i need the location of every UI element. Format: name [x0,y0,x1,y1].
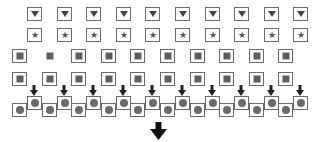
square-row-2-cell [190,72,205,86]
triangle-row-cell [116,7,131,21]
circle-icon [120,99,128,107]
square-row-1-cell [278,49,293,63]
square-row-2-cell [130,72,145,86]
chain-upper-cell [145,96,160,110]
square-icon [46,76,53,83]
chain-upper-cell [57,96,72,110]
chain-upper-cell [175,96,190,110]
square-row-2-cell [71,72,86,86]
star-row-cell: ★ [27,28,42,42]
chain-upper-cell [205,96,220,110]
star-icon: ★ [31,31,39,40]
chain-upper-cell [86,96,101,110]
triangle-row-cell [27,7,42,21]
triangle-down-icon [90,11,98,17]
chain-lower-cell [278,103,293,117]
circle-icon [209,99,217,107]
chain-lower-cell [42,103,57,117]
square-row-1-cell [249,49,264,63]
square-row-2-cell [249,72,264,86]
star-icon: ★ [179,31,187,40]
triangle-down-icon [61,11,69,17]
star-row-cell: ★ [145,28,160,42]
star-icon: ★ [90,31,98,40]
square-row-2-cell [219,72,234,86]
circle-icon [105,106,113,114]
triangle-row-cell [264,7,279,21]
square-row-1-cell [130,49,145,63]
square-icon [134,76,141,83]
shape-diagram: ★★★★★★★★★★ [0,0,317,142]
star-icon: ★ [149,31,157,40]
square-icon [75,76,82,83]
square-icon [16,53,23,60]
circle-icon [268,99,276,107]
circle-icon [134,106,142,114]
star-icon: ★ [209,31,217,40]
triangle-down-icon [149,11,157,17]
triangle-down-icon [209,11,217,17]
star-row-cell: ★ [86,28,101,42]
triangle-down-icon [238,11,246,17]
square-row-1-cell [101,49,116,63]
square-icon [253,53,260,60]
triangle-row-cell [86,7,101,21]
triangle-down-icon [31,11,39,17]
chain-lower-cell [130,103,145,117]
chain-lower-cell [190,103,205,117]
square-icon [16,76,23,83]
square-row-1-cell [190,49,205,63]
circle-icon [194,106,202,114]
star-row-cell: ★ [175,28,190,42]
circle-icon [61,99,69,107]
big-arrow-down-icon [150,122,167,140]
star-icon: ★ [297,31,305,40]
square-icon [282,76,289,83]
circle-icon [179,99,187,107]
square-row-2-cell [160,72,175,86]
star-row-cell: ★ [293,28,308,42]
chain-lower-cell [12,103,27,117]
star-row-cell: ★ [264,28,279,42]
square-icon [194,76,201,83]
chain-upper-cell [293,96,308,110]
square-row-1-cell [160,49,175,63]
square-row-1-cell [12,49,27,63]
square-row-2-cell [278,72,293,86]
square-icon [253,76,260,83]
square-row-2-cell [12,72,27,86]
star-icon: ★ [61,31,69,40]
circle-icon [46,106,54,114]
square-icon [194,53,201,60]
triangle-row-cell [293,7,308,21]
circle-icon [238,99,246,107]
chain-upper-cell [27,96,42,110]
circle-icon [282,106,290,114]
square-row-1-cell [42,49,57,63]
star-row-cell: ★ [57,28,72,42]
star-row-cell: ★ [205,28,220,42]
square-icon [134,53,141,60]
triangle-row-cell [57,7,72,21]
circle-icon [31,99,39,107]
circle-icon [90,99,98,107]
chain-upper-cell [234,96,249,110]
triangle-row-cell [234,7,249,21]
square-icon [75,53,82,60]
chain-lower-cell [249,103,264,117]
circle-icon [223,106,231,114]
circle-icon [149,99,157,107]
triangle-down-icon [120,11,128,17]
chain-lower-cell [219,103,234,117]
star-row-cell: ★ [234,28,249,42]
square-row-2-cell [101,72,116,86]
star-icon: ★ [120,31,128,40]
triangle-row-cell [145,7,160,21]
circle-icon [297,99,305,107]
square-icon [282,53,289,60]
square-icon [105,76,112,83]
circle-icon [164,106,172,114]
triangle-down-icon [268,11,276,17]
square-icon [223,76,230,83]
square-icon [223,53,230,60]
